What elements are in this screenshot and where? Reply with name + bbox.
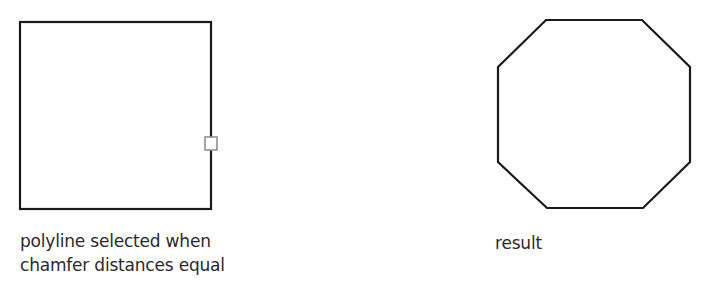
pickbox-icon: [205, 137, 217, 150]
caption-result: result: [495, 231, 542, 255]
polyline-square: [20, 22, 211, 209]
result-octagon: [498, 20, 690, 208]
caption-polyline-selected: polyline selected when chamfer distances…: [20, 229, 225, 277]
caption-line: polyline selected when: [20, 229, 225, 253]
caption-line: result: [495, 231, 542, 255]
caption-line: chamfer distances equal: [20, 253, 225, 277]
